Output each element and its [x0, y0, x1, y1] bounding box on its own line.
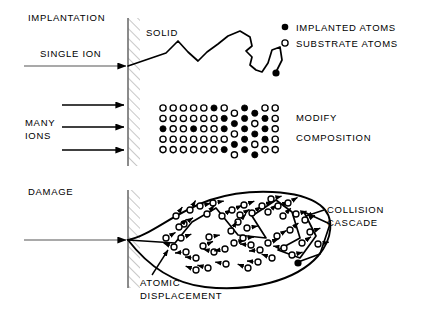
recoil-arrow: [217, 201, 223, 202]
recoil-arrow: [306, 237, 311, 241]
recoil-arrow: [175, 252, 182, 253]
substrate-atom: [170, 115, 176, 121]
solid-surface-top: [128, 18, 140, 166]
implanted-atom: [252, 110, 258, 116]
implanted-atom: [221, 126, 227, 132]
recoil-arrow: [188, 218, 193, 222]
substrate-atom: [180, 126, 186, 132]
recoil-arrow: [296, 252, 302, 254]
substrate-atom: [240, 235, 246, 241]
recoil-arrow: [247, 261, 254, 262]
recoil-arrow: [179, 207, 183, 212]
substrate-atom: [171, 244, 177, 250]
substrate-atom: [269, 255, 275, 261]
substrate-atom: [193, 267, 199, 273]
implanted-atom: [211, 105, 217, 111]
substrate-atom: [204, 211, 210, 217]
substrate-atom: [201, 105, 207, 111]
substrate-atom: [191, 115, 197, 121]
substrate-atom: [200, 243, 206, 249]
substrate-atom: [231, 240, 237, 246]
substrate-atom: [170, 105, 176, 111]
substrate-atom: [211, 126, 217, 132]
recoil-arrow: [185, 234, 191, 236]
substrate-atom: [229, 207, 235, 213]
filled-circle-icon: [282, 24, 289, 31]
substrate-atom: [160, 136, 166, 142]
substrate-atom: [211, 147, 217, 153]
recoil-arrow: [262, 254, 268, 256]
substrate-atom: [281, 245, 287, 251]
recoil-arrow: [185, 257, 192, 258]
substrate-atom: [272, 115, 278, 121]
recoil-arrow: [207, 241, 213, 244]
substrate-atom: [170, 136, 176, 142]
recoil-arrow: [164, 243, 170, 245]
recoil-arrow: [240, 244, 247, 245]
recoil-arrow: [314, 228, 320, 230]
substrate-atom: [197, 203, 203, 209]
substrate-atom: [191, 136, 197, 142]
implanted-atom: [242, 115, 248, 121]
substrate-atom: [180, 105, 186, 111]
substrate-atom: [160, 115, 166, 121]
substrate-atom: [272, 126, 278, 132]
substrate-atom: [201, 136, 207, 142]
implanted-atom: [262, 115, 268, 121]
substrate-atom: [180, 115, 186, 121]
implanted-atom-endpoint: [272, 69, 279, 76]
implanted-atom: [242, 136, 248, 142]
substrate-atom: [221, 136, 227, 142]
legend-markers: [282, 24, 289, 46]
substrate-atom: [173, 213, 179, 219]
substrate-atom: [219, 213, 225, 219]
substrate-atom: [191, 105, 197, 111]
substrate-atom: [178, 235, 184, 241]
figure-root: IMPLANTATION SINGLE ION SOLID IMPLANTED …: [0, 0, 438, 315]
recoil-arrow: [273, 246, 279, 247]
implanted-atom: [262, 126, 268, 132]
implanted-atom: [160, 126, 166, 132]
displaced-atoms-group: [163, 196, 329, 273]
substrate-atom: [252, 121, 258, 127]
substrate-atom: [170, 147, 176, 153]
substrate-atom: [180, 136, 186, 142]
substrate-atom: [228, 228, 234, 234]
implanted-atom: [242, 126, 248, 132]
atom-grid: [160, 105, 278, 158]
substrate-atom: [287, 227, 293, 233]
substrate-atom: [274, 233, 280, 239]
substrate-atom: [201, 115, 207, 121]
substrate-atom: [231, 110, 237, 116]
substrate-atom: [222, 246, 228, 252]
recoil-arrow: [186, 266, 192, 268]
implanted-atom: [221, 147, 227, 153]
substrate-atom: [231, 152, 237, 158]
substrate-atom: [315, 241, 321, 247]
substrate-atom: [285, 200, 291, 206]
substrate-atom: [170, 126, 176, 132]
substrate-atom: [176, 224, 182, 230]
substrate-atom: [259, 203, 265, 209]
substrate-atom: [163, 235, 169, 241]
substrate-atom: [280, 213, 286, 219]
recoil-arrow: [215, 262, 221, 263]
recoil-arrow: [213, 235, 219, 236]
open-circle-icon: [282, 40, 288, 46]
substrate-atom: [211, 115, 217, 121]
substrate-atom: [183, 249, 189, 255]
substrate-atom: [272, 147, 278, 153]
recoil-arrow: [197, 265, 203, 267]
ion-trajectory-path: [128, 31, 282, 77]
recoil-arrow: [248, 201, 254, 203]
substrate-atom: [255, 259, 261, 265]
substrate-atom: [160, 147, 166, 153]
substrate-atom: [265, 240, 271, 246]
substrate-atom: [205, 265, 211, 271]
substrate-atom: [265, 209, 271, 215]
cascade-end-atom: [294, 259, 301, 266]
recoil-arrow: [281, 231, 287, 234]
substrate-atom: [180, 147, 186, 153]
substrate-atom: [268, 196, 274, 202]
substrate-atom: [221, 105, 227, 111]
